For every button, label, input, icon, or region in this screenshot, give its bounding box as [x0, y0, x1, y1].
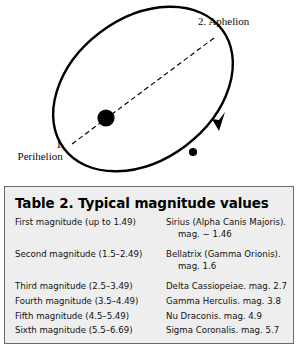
table-row: Fourth magnitude (3.5–4.49) Gamma Hercul…	[15, 296, 293, 308]
magnitude-class-cell: Sixth magnitude (5.5–6.69)	[15, 325, 166, 337]
example-star-name: Nu Draconis. mag. 4.9	[166, 311, 262, 321]
table-row: Fifth magnitude (4.5–5.49) Nu Draconis. …	[15, 311, 293, 323]
magnitude-class-cell: Fourth magnitude (3.5–4.49)	[15, 296, 166, 308]
magnitude-class-cell: Fifth magnitude (4.5–5.49)	[15, 311, 166, 323]
aphelion-label: 2. Aphelion	[198, 15, 249, 27]
example-star-cell: Sirius (Alpha Canis Majoris). mag. − 1.4…	[166, 217, 286, 240]
table-row: Sixth magnitude (5.5–6.69) Sigma Coronal…	[15, 325, 293, 337]
perihelion-label: 1. Perihelion	[16, 138, 64, 163]
table-title: Table 2. Typical magnitude values	[5, 187, 293, 211]
example-star-name: Delta Cassiopeiae. mag. 2.7	[166, 281, 287, 291]
example-star-cell: Delta Cassiopeiae. mag. 2.7	[166, 281, 287, 293]
elliptical-orbit-diagram: 2. Aphelion 1. Perihelion	[0, 0, 302, 184]
example-star-cell: Sigma Coronalis. mag. 5.7	[166, 325, 279, 337]
example-star-cell: Bellatrix (Gamma Orionis). mag. 1.6	[166, 249, 281, 272]
perihelion-number: 1.	[56, 138, 64, 150]
perihelion-word: Perihelion	[16, 150, 64, 162]
planet-marker	[189, 148, 197, 156]
table-row: Second magnitude (1.5–2.49) Bellatrix (G…	[15, 249, 293, 272]
example-star-magnitude: mag. 1.6	[166, 261, 281, 273]
example-star-name: Sigma Coronalis. mag. 5.7	[166, 325, 279, 335]
sun-marker	[97, 109, 114, 126]
table-row: Third magnitude (2.5–3.49) Delta Cassiop…	[15, 281, 293, 293]
example-star-name: Bellatrix (Gamma Orionis).	[166, 249, 281, 259]
major-axis-dashed-line	[72, 38, 214, 144]
magnitude-class-cell: Third magnitude (2.5–3.49)	[15, 281, 166, 293]
table-body: First magnitude (up to 1.49) Sirius (Alp…	[5, 211, 293, 337]
magnitude-table-panel: Table 2. Typical magnitude values First …	[4, 186, 294, 344]
example-star-name: Gamma Herculis. mag. 3.8	[166, 296, 281, 306]
example-star-name: Sirius (Alpha Canis Majoris).	[166, 217, 286, 227]
example-star-magnitude: mag. − 1.46	[166, 229, 286, 241]
example-star-cell: Gamma Herculis. mag. 3.8	[166, 296, 281, 308]
magnitude-class-cell: First magnitude (up to 1.49)	[15, 217, 166, 229]
magnitude-class-cell: Second magnitude (1.5–2.49)	[15, 249, 166, 261]
table-row: First magnitude (up to 1.49) Sirius (Alp…	[15, 217, 293, 240]
orbit-direction-arrow-icon	[212, 112, 225, 131]
example-star-cell: Nu Draconis. mag. 4.9	[166, 311, 262, 323]
